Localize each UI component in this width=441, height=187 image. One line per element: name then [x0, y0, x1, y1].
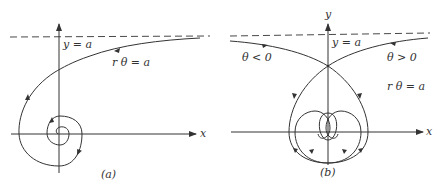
curve-label: r θ = a [387, 80, 425, 93]
y-axis-label: y [324, 8, 332, 21]
panel-caption: (a) [101, 168, 116, 181]
panel-b: y y = a θ < 0 θ > 0 r θ = a x (b) [230, 8, 433, 179]
x-axis-label: x [426, 125, 433, 138]
arrow-icon [292, 93, 297, 99]
arrow-icon [358, 148, 363, 153]
asymptote-dashed [230, 33, 430, 36]
arrow-icon [75, 149, 82, 156]
spiral-curve [19, 38, 200, 166]
branch-negative-label: θ < 0 [242, 51, 272, 64]
asymptote-dashed [10, 36, 210, 37]
hyperbolic-spiral-figure: y = a r θ = a x (a) y y = a θ < 0 θ > 0 … [0, 0, 441, 187]
panel-a: y = a r θ = a x (a) [10, 24, 210, 181]
asymptote-label: y = a [331, 36, 361, 49]
panel-caption: (b) [320, 166, 336, 179]
branch-positive-label: θ > 0 [387, 51, 417, 64]
arrow-icon [309, 149, 314, 154]
arrow-icon [342, 149, 347, 154]
curve-label: r θ = a [112, 56, 150, 69]
crossing-point [327, 65, 329, 67]
asymptote-label: y = a [62, 38, 92, 51]
x-axis-label: x [200, 127, 207, 140]
arrow-icon [262, 44, 268, 48]
